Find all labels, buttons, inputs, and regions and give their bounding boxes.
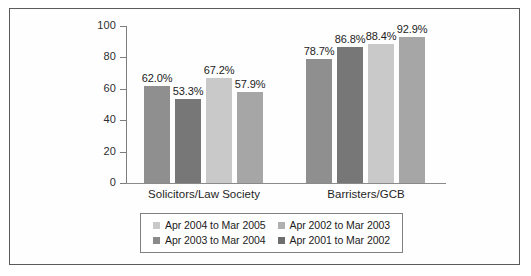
category-label-solicitors: Solicitors/Law Society — [144, 189, 264, 201]
chart-legend: Apr 2004 to Mar 2005 Apr 2002 to Mar 200… — [140, 213, 403, 253]
figure-frame: 100 80 60 40 20 0 62.0% 53.3% 67.2% 57.9… — [9, 8, 520, 265]
y-tick-label-40: 40 — [56, 114, 116, 125]
x-axis-baseline — [126, 183, 446, 184]
y-tick-80 — [120, 57, 126, 58]
legend-item-apr-2001-mar-2002[interactable]: Apr 2001 to Mar 2002 — [278, 234, 393, 247]
y-axis-tick-labels: 100 80 60 40 20 0 — [54, 9, 116, 209]
legend-swatch-icon — [153, 222, 160, 229]
y-tick-100 — [120, 26, 126, 27]
y-tick-label-20: 20 — [56, 146, 116, 157]
legend-item-label: Apr 2001 to Mar 2002 — [290, 234, 391, 247]
legend-item-apr-2004-mar-2005[interactable]: Apr 2004 to Mar 2005 — [153, 219, 268, 232]
bar-value-label: 86.8% — [335, 34, 366, 45]
bar-value-label: 62.0% — [142, 73, 173, 84]
bar-value-label: 67.2% — [204, 65, 235, 76]
category-label-barristers: Barristers/GCB — [306, 189, 426, 201]
y-tick-60 — [120, 89, 126, 90]
y-tick-label-60: 60 — [56, 83, 116, 94]
bar-solicitors-2001-2002[interactable]: 57.9% — [237, 92, 263, 183]
legend-swatch-icon — [278, 237, 285, 244]
legend-item-label: Apr 2004 to Mar 2005 — [165, 219, 266, 232]
legend-swatch-icon — [278, 222, 285, 229]
y-tick-40 — [120, 120, 126, 121]
bar-group-solicitors: 62.0% 53.3% 67.2% 57.9% — [144, 26, 264, 183]
y-tick-20 — [120, 152, 126, 153]
bar-value-label: 57.9% — [235, 79, 266, 90]
bar-group-barristers: 78.7% 86.8% 88.4% 92.9% — [306, 26, 426, 183]
bar-value-label: 88.4% — [366, 31, 397, 42]
bar-solicitors-2003-2004[interactable]: 53.3% — [175, 99, 201, 183]
bar-solicitors-2004-2005[interactable]: 62.0% — [144, 86, 170, 183]
bar-value-label: 92.9% — [397, 24, 428, 35]
legend-item-label: Apr 2002 to Mar 2003 — [290, 219, 391, 232]
y-tick-0 — [120, 183, 126, 184]
y-tick-label-0: 0 — [56, 177, 116, 188]
legend-swatch-icon — [153, 237, 160, 244]
legend-item-apr-2003-mar-2004[interactable]: Apr 2003 to Mar 2004 — [153, 234, 268, 247]
legend-item-apr-2002-mar-2003[interactable]: Apr 2002 to Mar 2003 — [278, 219, 393, 232]
bar-solicitors-2002-2003[interactable]: 67.2% — [206, 78, 232, 184]
bar-barristers-2004-2005[interactable]: 78.7% — [306, 59, 332, 183]
y-tick-label-80: 80 — [56, 51, 116, 62]
y-axis-line — [126, 26, 127, 184]
bar-barristers-2002-2003[interactable]: 88.4% — [368, 44, 394, 183]
bar-barristers-2003-2004[interactable]: 86.8% — [337, 47, 363, 183]
bar-barristers-2001-2002[interactable]: 92.9% — [399, 37, 425, 183]
bar-value-label: 78.7% — [304, 46, 335, 57]
y-tick-label-100: 100 — [56, 20, 116, 31]
bar-value-label: 53.3% — [173, 86, 204, 97]
legend-item-label: Apr 2003 to Mar 2004 — [165, 234, 266, 247]
bar-chart: 100 80 60 40 20 0 62.0% 53.3% 67.2% 57.9… — [10, 9, 521, 266]
